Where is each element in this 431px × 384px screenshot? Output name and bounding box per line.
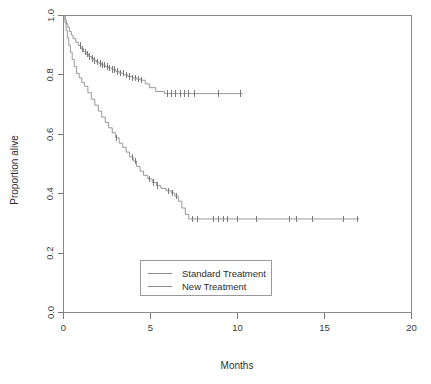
y-axis-title: Proportion alive xyxy=(9,135,20,205)
y-tick-label: 0.4 xyxy=(45,187,56,200)
x-tick-label: 20 xyxy=(406,322,417,333)
survival-chart: 05101520 0.00.20.40.60.81.0 Months Propo… xyxy=(0,0,431,384)
x-tick-label: 0 xyxy=(61,322,66,333)
y-tick-label: 0.2 xyxy=(45,246,56,259)
x-tick-label: 10 xyxy=(232,322,243,333)
survival-curves xyxy=(64,16,360,223)
y-tick-label: 0.8 xyxy=(45,68,56,81)
y-tick-label: 0.0 xyxy=(45,306,56,319)
x-tick-label: 5 xyxy=(148,322,153,333)
kaplan-meier-plot: 05101520 0.00.20.40.60.81.0 Months Propo… xyxy=(0,0,431,384)
y-tick-label: 1.0 xyxy=(45,9,56,22)
km-step-curve xyxy=(64,16,360,219)
survival-series xyxy=(64,16,243,97)
chart-legend: Standard TreatmentNew Treatment xyxy=(141,261,272,296)
y-axis-ticks: 0.00.20.40.60.81.0 xyxy=(45,9,64,319)
y-tick-label: 0.6 xyxy=(45,128,56,141)
legend-label-0: Standard Treatment xyxy=(182,268,266,279)
x-tick-label: 15 xyxy=(319,322,330,333)
x-axis-title: Months xyxy=(221,360,254,371)
survival-series xyxy=(64,16,360,223)
x-axis-ticks: 05101520 xyxy=(61,313,417,333)
legend-label-1: New Treatment xyxy=(182,281,247,292)
